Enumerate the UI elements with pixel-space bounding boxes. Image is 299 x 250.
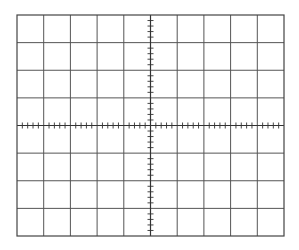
oscilloscope-graticule [0, 0, 299, 250]
